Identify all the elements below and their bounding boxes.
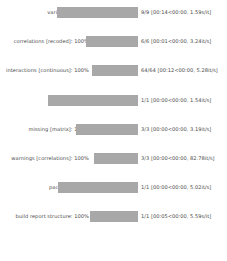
progress-bar-fill [94, 153, 138, 164]
progress-row-label: correlations [recoded]: 100% [14, 36, 89, 47]
progress-bar-fill [86, 36, 138, 47]
progress-row-inner: variables: 100%9/9 [00:14<00:00, 1.59s/i… [0, 7, 227, 18]
progress-row-inner: package: 100%1/1 [00:00<00:00, 5.02it/s] [0, 182, 227, 193]
progress-row: package: 100%1/1 [00:00<00:00, 5.02it/s] [0, 182, 227, 211]
progress-row-inner: build report structure: 100%1/1 [00:05<0… [0, 211, 227, 222]
progress-bar-list: variables: 100%9/9 [00:14<00:00, 1.59s/i… [0, 0, 227, 261]
progress-row: table: 100%1/1 [00:00<00:00, 1.54it/s] [0, 95, 227, 124]
progress-row-stats: 64/64 [00:12<00:00, 5.28it/s] [141, 65, 218, 76]
progress-row-inner: table: 100%1/1 [00:00<00:00, 1.54it/s] [0, 95, 227, 106]
progress-row: warnings [correlations]: 100%3/3 [00:00<… [0, 153, 227, 182]
progress-bar-fill [58, 182, 138, 193]
progress-row-stats: 3/3 [00:00<00:00, 82.78it/s] [141, 153, 215, 164]
progress-row-stats: 1/1 [00:00<00:00, 1.54it/s] [141, 95, 211, 106]
progress-row-inner: correlations [recoded]: 100%6/6 [00:01<0… [0, 36, 227, 47]
progress-bar-track [92, 65, 138, 76]
progress-bar-fill [76, 124, 138, 135]
progress-row-inner: warnings [correlations]: 100%3/3 [00:00<… [0, 153, 227, 164]
progress-bar-fill [57, 7, 138, 18]
progress-row-stats: 9/9 [00:14<00:00, 1.59s/it] [141, 7, 211, 18]
progress-row-stats: 1/1 [00:05<00:00, 5.59s/it] [141, 211, 211, 222]
progress-row-label: build report structure: 100% [16, 211, 89, 222]
progress-bar-track [76, 124, 138, 135]
progress-row: variables: 100%9/9 [00:14<00:00, 1.59s/i… [0, 7, 227, 36]
progress-bar-track [57, 7, 138, 18]
progress-row-inner: interactions [continuous]: 100%64/64 [00… [0, 65, 227, 76]
progress-bar-track [58, 182, 138, 193]
progress-bar-track [94, 153, 138, 164]
progress-bar-track [90, 211, 138, 222]
progress-row-inner: missing [matrix]: 100%3/3 [00:00<00:00, … [0, 124, 227, 135]
progress-row-label: warnings [correlations]: 100% [11, 153, 89, 164]
progress-row: correlations [recoded]: 100%6/6 [00:01<0… [0, 36, 227, 65]
progress-row-stats: 1/1 [00:00<00:00, 5.02it/s] [141, 182, 211, 193]
progress-bar-track [48, 95, 138, 106]
progress-bar-fill [90, 211, 138, 222]
progress-row-stats: 6/6 [00:01<00:00, 3.24it/s] [141, 36, 211, 47]
progress-row: build report structure: 100%1/1 [00:05<0… [0, 211, 227, 240]
progress-bar-track [86, 36, 138, 47]
progress-row-label: interactions [continuous]: 100% [6, 65, 89, 76]
progress-row: interactions [continuous]: 100%64/64 [00… [0, 65, 227, 94]
progress-row: missing [matrix]: 100%3/3 [00:00<00:00, … [0, 124, 227, 153]
progress-bar-fill [92, 65, 138, 76]
progress-bar-fill [48, 95, 138, 106]
progress-row-stats: 3/3 [00:00<00:00, 3.19it/s] [141, 124, 211, 135]
